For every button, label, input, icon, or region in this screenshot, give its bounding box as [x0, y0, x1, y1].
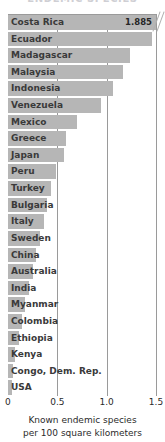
bar-row: Peru — [0, 163, 165, 180]
plot-area: Costa Rica1.885EcuadorMadagascarMalaysia… — [0, 14, 165, 396]
bar-row: Mexico — [0, 114, 165, 131]
bar-row: Madagascar — [0, 47, 165, 64]
bar-category-label: Mexico — [11, 115, 46, 130]
x-axis-caption-line-2: per 100 square kilometers — [0, 427, 165, 440]
bar-row: Indonesia — [0, 80, 165, 97]
bar-row: Myanmar — [0, 296, 165, 313]
bar-row: Turkey — [0, 180, 165, 197]
bar-category-label: Malaysia — [11, 65, 55, 80]
axis-break-marker — [156, 13, 165, 31]
x-axis-caption-line-1: Known endemic species — [0, 414, 165, 427]
bar-row: USA — [0, 379, 165, 396]
chart-title: ENDEMIC SPECIES — [0, 0, 165, 2]
bar-row: India — [0, 280, 165, 297]
x-tick-mark-0.5 — [57, 388, 58, 396]
bar-category-label: Venezuela — [11, 98, 63, 113]
bar-row: Ecuador — [0, 31, 165, 48]
bar-row: Costa Rica1.885 — [0, 14, 165, 31]
bar-category-label: USA — [11, 380, 32, 395]
bar-category-label: Madagascar — [11, 48, 72, 63]
bar-row: Japan — [0, 147, 165, 164]
bar-row: Colombia — [0, 313, 165, 330]
bar-value-label: 1.885 — [120, 15, 152, 30]
bar-category-label: India — [11, 281, 36, 296]
bar-row: Kenya — [0, 346, 165, 363]
bar-category-label: Ethiopia — [11, 331, 53, 346]
bar-category-label: Japan — [11, 148, 39, 163]
x-tick-label-1.0: 1.0 — [99, 397, 113, 407]
x-tick-mark-1.0 — [107, 388, 108, 396]
bar-row: Ethiopia — [0, 330, 165, 347]
x-tick-label-0.5: 0.5 — [50, 397, 64, 407]
x-tick-label-1.5: 1.5 — [149, 397, 163, 407]
bar-category-label: Australia — [11, 264, 57, 279]
bar-row: Italy — [0, 213, 165, 230]
bar-row: Congo, Dem. Rep. — [0, 363, 165, 380]
bar-category-label: Myanmar — [11, 297, 58, 312]
bar-row: Greece — [0, 130, 165, 147]
bar-category-label: Greece — [11, 131, 46, 146]
x-axis-caption: Known endemic species per 100 square kil… — [0, 414, 165, 439]
bar-category-label: Indonesia — [11, 81, 60, 96]
bar-row: Sweden — [0, 230, 165, 247]
bar-row: Malaysia — [0, 64, 165, 81]
bar-category-label: Congo, Dem. Rep. — [11, 364, 102, 379]
endemic-species-bar-chart: ENDEMIC SPECIES Costa Rica1.885EcuadorMa… — [0, 0, 165, 442]
bar-row: Venezuela — [0, 97, 165, 114]
bar-row: Australia — [0, 263, 165, 280]
bar-category-label: Colombia — [11, 314, 58, 329]
bar-category-label: Turkey — [11, 181, 45, 196]
bar-category-label: Bulgaria — [11, 198, 53, 213]
bar-row: China — [0, 247, 165, 264]
bar-category-label: Kenya — [11, 347, 42, 362]
bar-category-label: Peru — [11, 164, 35, 179]
x-tick-mark-1.5 — [156, 388, 157, 396]
bar-row: Bulgaria — [0, 197, 165, 214]
bar-category-label: Costa Rica — [11, 15, 64, 30]
bar-category-label: Ecuador — [11, 32, 52, 47]
x-axis: 00.51.01.5 — [0, 396, 165, 416]
bar-category-label: Italy — [11, 214, 34, 229]
x-tick-label-0: 0 — [5, 397, 11, 407]
bar-category-label: China — [11, 248, 40, 263]
bar-category-label: Sweden — [11, 231, 51, 246]
